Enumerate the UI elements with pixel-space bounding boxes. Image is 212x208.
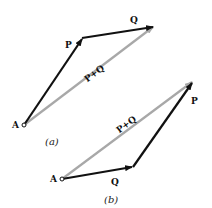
label-p: P (191, 97, 198, 106)
label-origin: A (12, 121, 19, 130)
vector-p-arrow (24, 39, 82, 125)
label-origin: A (50, 175, 57, 184)
label-q: Q (130, 16, 138, 25)
resultant-arrow (62, 82, 192, 179)
vector-q-arrow (62, 167, 132, 179)
vector-addition-diagram (0, 0, 212, 208)
figure-b (60, 82, 192, 181)
vector-p-arrow (133, 83, 192, 167)
caption-b: (b) (104, 195, 118, 205)
label-p: P (65, 41, 72, 50)
caption-a: (a) (45, 137, 59, 147)
origin-point (60, 177, 64, 181)
label-q: Q (111, 178, 119, 187)
origin-point (22, 123, 26, 127)
